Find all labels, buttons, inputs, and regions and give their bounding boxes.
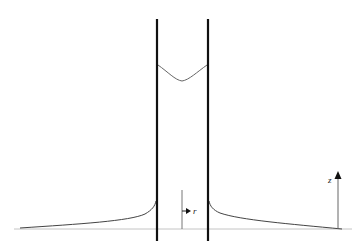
outer-surface-right (209, 201, 342, 229)
capillary-diagram: r z (0, 0, 358, 249)
z-axis-label: z (327, 175, 332, 185)
z-arrow-icon (335, 171, 342, 179)
r-axis-label: r (193, 206, 197, 216)
r-arrow-icon (186, 208, 191, 214)
outer-surface-left (20, 201, 156, 228)
meniscus (158, 65, 207, 81)
